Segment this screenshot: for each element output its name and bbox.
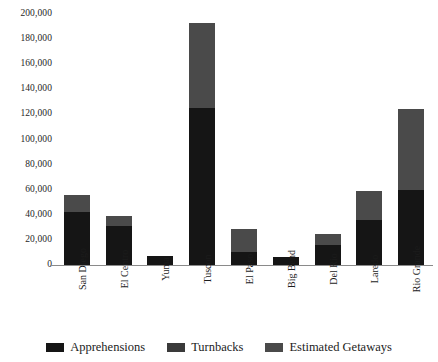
bar-segment-apprehensions: [189, 108, 215, 265]
y-axis-tick-label: 20,000: [2, 235, 52, 245]
y-axis-tick-label: 80,000: [2, 160, 52, 170]
y-axis-tick-label: 40,000: [2, 210, 52, 220]
chart-legend: ApprehensionsTurnbacksEstimated Getaways: [0, 336, 438, 358]
y-axis: 200,000180,000160,000140,000120,000100,0…: [0, 0, 52, 362]
x-axis-tick-slot: Big Bend: [265, 267, 307, 329]
bar-segment-estimated-getaways: [315, 234, 341, 245]
y-axis-tick-label: 200,000: [2, 9, 52, 19]
y-axis-tick-label: 60,000: [2, 185, 52, 195]
bar-slot: [390, 14, 432, 265]
x-axis-tick-label: San Diego: [77, 248, 88, 290]
bar-tuscon[interactable]: [189, 23, 215, 265]
bar-slot: [307, 14, 349, 265]
bar-slot: [140, 14, 182, 265]
legend-swatch-apprehensions: [46, 343, 64, 352]
legend-label: Apprehensions: [70, 341, 145, 354]
x-axis-tick-label: Laredo: [369, 255, 380, 283]
x-axis-tick-slot: Laredo: [348, 267, 390, 329]
x-axis-tick-slot: Rio Grande: [390, 267, 432, 329]
bar-segment-estimated-getaways: [106, 216, 132, 226]
x-axis-tick-label: El Paso: [244, 254, 255, 284]
x-axis-tick-slot: Tuscon: [181, 267, 223, 329]
stacked-bar-chart: 200,000180,000160,000140,000120,000100,0…: [0, 0, 438, 362]
legend-entry[interactable]: Turnbacks: [167, 341, 243, 354]
bar-slot: [181, 14, 223, 265]
y-axis-tick-label: 140,000: [2, 84, 52, 94]
x-axis-tick-slot: El Paso: [223, 267, 265, 329]
bar-slot: [265, 14, 307, 265]
legend-swatch-estimated-getaways: [265, 343, 283, 352]
legend-swatch-turnbacks: [167, 343, 185, 352]
x-axis-tick-slot: Yuma: [140, 267, 182, 329]
bar-segment-estimated-getaways: [231, 229, 257, 253]
x-axis-tick-slot: San Diego: [56, 267, 98, 329]
legend-label: Turnbacks: [191, 341, 243, 354]
x-axis-tick-label: Del Rio: [328, 253, 339, 284]
title-remnant: [150, 0, 290, 5]
y-axis-tick-label: 100,000: [2, 135, 52, 145]
legend-entry[interactable]: Apprehensions: [46, 341, 145, 354]
x-axis-tick-slot: El Centro: [98, 267, 140, 329]
bar-slot: [98, 14, 140, 265]
bar-segment-estimated-getaways: [356, 191, 382, 220]
y-axis-tick-label: 160,000: [2, 59, 52, 69]
bar-slot: [348, 14, 390, 265]
x-axis-tick-label: Big Bend: [286, 250, 297, 288]
plot-area: [56, 14, 432, 265]
x-axis-tick-label: Yuma: [160, 257, 171, 280]
y-axis-tick-label: 0: [2, 260, 52, 270]
y-axis-tick-label: 180,000: [2, 34, 52, 44]
bar-segment-estimated-getaways: [398, 109, 424, 189]
x-axis-tick-label: El Centro: [119, 250, 130, 289]
bar-slot: [223, 14, 265, 265]
legend-entry[interactable]: Estimated Getaways: [265, 341, 391, 354]
x-axis-tick-label: Rio Grande: [411, 246, 422, 292]
x-axis-tick-label: Tuscon: [202, 254, 213, 283]
bar-segment-estimated-getaways: [64, 195, 90, 213]
bar-rio-grande[interactable]: [398, 109, 424, 265]
x-axis-tick-slot: Del Rio: [307, 267, 349, 329]
y-axis-tick-label: 120,000: [2, 109, 52, 119]
legend-label: Estimated Getaways: [289, 341, 391, 354]
bar-slot: [56, 14, 98, 265]
x-axis: San DiegoEl CentroYumaTusconEl PasoBig B…: [56, 267, 432, 329]
bar-segment-estimated-getaways: [189, 23, 215, 108]
